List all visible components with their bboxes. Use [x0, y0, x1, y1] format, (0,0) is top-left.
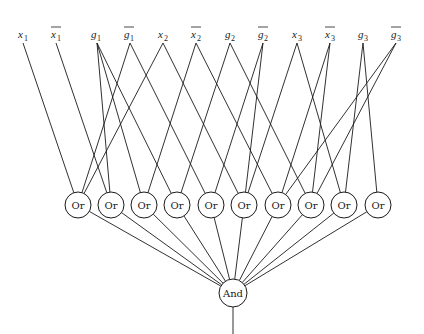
input-variable: x: [50, 28, 56, 40]
input-label-nx1: x1: [50, 27, 61, 43]
or-gate-label: Or: [138, 200, 151, 211]
input-subscript: 3: [364, 34, 368, 43]
input-subscript: 2: [197, 34, 201, 43]
input-subscript: 3: [397, 34, 401, 43]
or-gate-6: Or: [231, 192, 257, 218]
input-variable: x: [291, 28, 297, 40]
or-gate-4: Or: [164, 192, 190, 218]
wire-or4-to-and: [184, 216, 226, 281]
input-wires: [23, 43, 396, 194]
wire-g3-to-or9: [346, 43, 363, 192]
and-gate-label: And: [222, 288, 244, 299]
input-variable: x: [157, 28, 163, 40]
wire-g3-to-or10: [363, 43, 377, 192]
input-subscript: 1: [130, 34, 134, 43]
input-label-g2: g2: [225, 28, 235, 43]
wire-or7-to-and: [239, 217, 272, 281]
input-subscript: 1: [24, 34, 28, 43]
or-gate-5: Or: [198, 192, 224, 218]
or-gate-9: Or: [331, 192, 357, 218]
input-subscript: 1: [97, 34, 101, 43]
input-label-ng3: g3: [391, 27, 401, 43]
input-label-x3: x3: [291, 28, 302, 43]
input-variable: x: [190, 28, 196, 40]
input-label-nx3: x3: [324, 27, 335, 43]
wire-nx3-to-or7: [282, 43, 330, 193]
input-subscript: 2: [164, 34, 168, 43]
wire-or5-to-and: [214, 218, 229, 280]
input-subscript: 1: [57, 34, 61, 43]
input-subscript: 2: [231, 34, 235, 43]
wire-g2-to-or8: [230, 43, 305, 193]
or-gates: OrOrOrOrOrOrOrOrOrOr: [65, 192, 391, 218]
input-label-ng2: g2: [258, 27, 268, 43]
or-gate-label: Or: [205, 200, 218, 211]
wire-or10-to-and: [245, 212, 367, 286]
wire-ng3-to-or7: [286, 43, 396, 194]
wire-x2-to-or1: [84, 43, 163, 193]
input-label-g1: g1: [91, 28, 101, 43]
or-gate-7: Or: [265, 192, 291, 218]
input-label-x2: x2: [157, 28, 168, 43]
wire-or6-to-and: [235, 218, 243, 279]
input-label-ng1: g1: [124, 27, 134, 43]
wire-ng1-to-or5: [130, 43, 205, 193]
wire-or1-to-and: [89, 211, 221, 286]
or-gate-3: Or: [131, 192, 157, 218]
and-gate: And: [219, 279, 247, 307]
or-to-and-wires: [89, 211, 367, 334]
or-gate-8: Or: [298, 192, 324, 218]
wire-x2-to-or6: [163, 43, 238, 193]
wire-or3-to-and: [153, 214, 223, 283]
or-gate-label: Or: [72, 200, 85, 211]
or-gate-label: Or: [305, 200, 318, 211]
input-label-g3: g3: [358, 28, 368, 43]
or-gate-label: Or: [338, 200, 351, 211]
wire-or8-to-and: [242, 215, 302, 283]
input-subscript: 3: [331, 34, 335, 43]
input-label-x1: x1: [17, 28, 28, 43]
or-gate-label: Or: [272, 200, 285, 211]
circuit-diagram: x1x1g1g1x2x2g2g2x3x3g3g3 OrOrOrOrOrOrOrO…: [0, 0, 424, 334]
or-gate-label: Or: [171, 200, 184, 211]
input-label-nx2: x2: [190, 27, 201, 43]
input-subscript: 3: [298, 34, 302, 43]
input-variable: x: [324, 28, 330, 40]
wire-ng3-to-or8: [317, 43, 396, 193]
or-gate-label: Or: [105, 200, 118, 211]
input-subscript: 2: [264, 34, 268, 43]
or-gate-label: Or: [372, 200, 385, 211]
wire-or9-to-and: [244, 213, 334, 284]
wire-nx3-to-or8: [313, 43, 330, 192]
or-gate-1: Or: [65, 192, 91, 218]
wire-ng1-to-or1: [82, 43, 130, 193]
input-variable: x: [17, 28, 23, 40]
or-gate-10: Or: [365, 192, 391, 218]
input-labels: x1x1g1g1x2x2g2g2x3x3g3g3: [17, 27, 401, 43]
or-gate-2: Or: [98, 192, 124, 218]
wire-x1-to-or1: [23, 43, 74, 193]
or-gate-label: Or: [238, 200, 251, 211]
wire-or2-to-and: [122, 213, 222, 285]
